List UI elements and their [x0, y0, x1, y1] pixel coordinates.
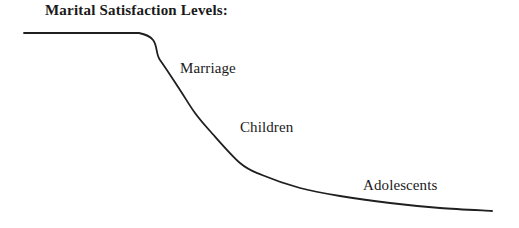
stage-label-adolescents: Adolescents	[363, 177, 437, 194]
marital-satisfaction-figure: Marital Satisfaction Levels: Marriage Ch…	[0, 0, 519, 228]
stage-label-marriage: Marriage	[180, 60, 236, 77]
stage-label-children: Children	[240, 119, 293, 136]
satisfaction-curve-chart	[0, 0, 519, 228]
